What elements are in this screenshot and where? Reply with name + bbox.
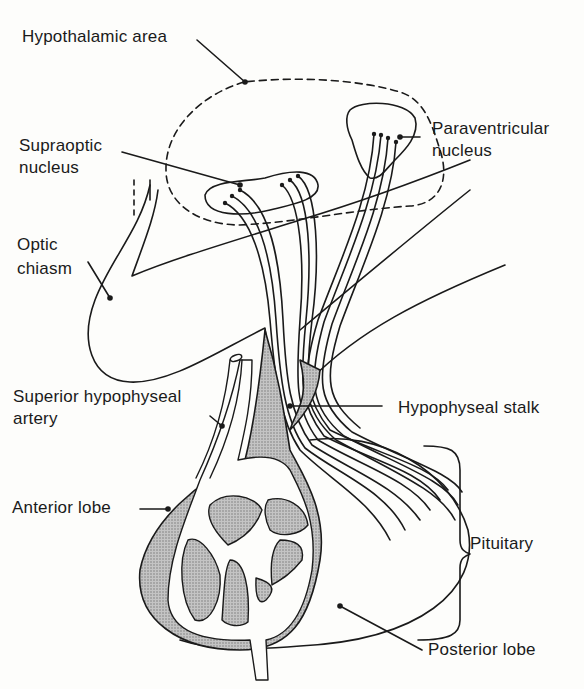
label-hypothalamic-area: Hypothalamic area [22, 26, 167, 48]
label-supraoptic-line2: nucleus [19, 157, 79, 179]
label-paraventricular-line1: Paraventricular [432, 118, 549, 140]
label-pituitary: Pituitary [470, 533, 533, 555]
label-optic-line1: Optic [17, 234, 58, 256]
pituitary-diagram: Hypothalamic area Supraoptic nucleus Par… [0, 0, 584, 689]
label-hypophyseal-stalk: Hypophyseal stalk [398, 397, 539, 419]
label-posterior-lobe: Posterior lobe [428, 639, 536, 661]
label-superior-artery-line1: Superior hypophyseal [13, 386, 181, 408]
label-anterior-lobe: Anterior lobe [12, 497, 111, 519]
label-superior-artery-line2: artery [13, 408, 58, 430]
diagram-artwork [0, 0, 584, 689]
label-paraventricular-line2: nucleus [432, 140, 492, 162]
label-supraoptic-line1: Supraoptic [19, 135, 102, 157]
paraventricular-nucleus-outline [347, 103, 416, 178]
label-optic-line2: chiasm [17, 258, 72, 280]
pituitary-brace [418, 446, 470, 640]
